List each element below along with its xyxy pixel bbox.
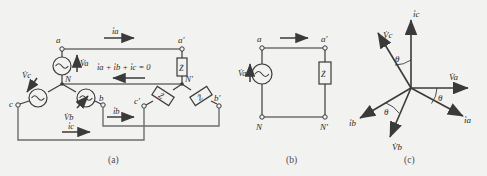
label-b-N-prime: N' xyxy=(319,122,329,132)
label-vc: V̇c xyxy=(22,70,31,80)
label-terminal-c: c xyxy=(9,99,13,109)
figure-svg: a a' i̇a i̇a + i̇b + i̇c = 0 V̇a N c V̇c xyxy=(0,0,487,176)
label-b-terminal-a: a xyxy=(257,34,262,44)
label-kcl-equation: i̇a + i̇b + i̇c = 0 xyxy=(97,62,151,72)
figure-root: a a' i̇a i̇a + i̇b + i̇c = 0 V̇a N c V̇c xyxy=(0,0,487,176)
terminal-c xyxy=(16,103,20,107)
caption-panel-c: (c) xyxy=(404,155,415,166)
label-theta-c: θ xyxy=(395,54,400,64)
terminal-b-N xyxy=(260,115,264,119)
label-terminal-b-prime: b' xyxy=(214,93,222,103)
label-b-N: N xyxy=(255,122,263,132)
label-c-ic: i̇c xyxy=(413,9,420,19)
label-b-terminal-a-prime: a' xyxy=(321,34,329,44)
caption-panel-a: (a) xyxy=(108,155,119,166)
label-theta-b: θ xyxy=(384,107,389,117)
label-za: Ż xyxy=(179,64,184,73)
label-va: V̇a xyxy=(80,58,89,68)
label-c-vc: V̇c xyxy=(383,30,393,40)
label-b-z: Ż xyxy=(321,70,326,79)
caption-panel-b: (b) xyxy=(286,155,297,166)
label-c-ib: i̇b xyxy=(349,118,357,128)
label-theta-a: θ xyxy=(438,93,443,103)
label-b-va: V̇a xyxy=(238,68,247,78)
terminal-b-a xyxy=(260,46,264,50)
terminal-b-N-prime xyxy=(323,115,327,119)
terminal-b xyxy=(101,103,105,107)
terminal-a-prime xyxy=(180,47,184,51)
label-terminal-b: b xyxy=(99,93,104,103)
label-terminal-a-prime: a' xyxy=(178,35,186,45)
label-N: N xyxy=(64,74,72,84)
terminal-a xyxy=(60,47,64,51)
terminal-b-prime xyxy=(217,104,221,108)
label-terminal-a: a xyxy=(56,35,61,45)
label-c-vb: V̇b xyxy=(392,142,402,152)
label-c-ia: i̇a xyxy=(464,115,472,125)
label-c-va: V̇a xyxy=(449,72,459,82)
label-ia: i̇a xyxy=(112,26,119,36)
label-ib: i̇b xyxy=(113,106,120,116)
terminal-b-a-prime xyxy=(323,46,327,50)
terminal-c-prime xyxy=(142,104,146,108)
label-ic: i̇c xyxy=(68,121,74,131)
label-N-prime: N' xyxy=(184,74,194,84)
